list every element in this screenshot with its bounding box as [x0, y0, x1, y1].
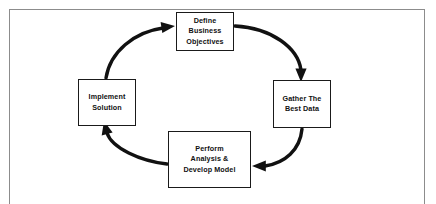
node-perform-line-2: Analysis & — [191, 154, 229, 165]
node-define-business-objectives[interactable]: Define Business Objectives — [176, 12, 234, 51]
node-implement-line-1: Implement — [89, 92, 126, 103]
node-implement-solution[interactable]: Implement Solution — [78, 79, 136, 126]
arrow-define-to-gather — [235, 26, 307, 82]
node-gather-the-best-data[interactable]: Gather The Best Data — [273, 80, 331, 128]
arrow-perform-to-implement — [102, 121, 167, 164]
node-define-line-1: Define — [194, 16, 217, 27]
node-define-line-2: Business — [189, 26, 222, 37]
node-gather-line-1: Gather The — [283, 94, 322, 105]
arrow-gather-to-perform — [252, 129, 302, 172]
arrow-implement-to-define — [106, 22, 175, 78]
node-implement-line-2: Solution — [92, 103, 122, 114]
node-gather-line-2: Best Data — [285, 104, 319, 115]
node-perform-analysis-develop-model[interactable]: Perform Analysis & Develop Model — [168, 131, 251, 188]
diagram-canvas: Define Business Objectives Gather The Be… — [0, 0, 436, 204]
node-perform-line-3: Develop Model — [183, 165, 235, 176]
node-perform-line-1: Perform — [195, 144, 223, 155]
node-define-line-3: Objectives — [186, 37, 223, 48]
